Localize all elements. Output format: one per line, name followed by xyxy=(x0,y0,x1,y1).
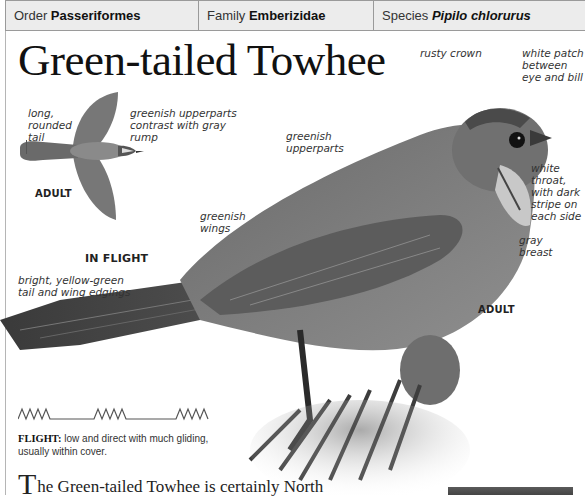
page-title: Green-tailed Towhee xyxy=(18,34,386,86)
flight-label: FLIGHT: xyxy=(18,433,62,444)
annotation-rusty-crown: rusty crown xyxy=(420,47,482,59)
in-flight-caption: IN FLIGHT xyxy=(85,252,148,265)
flight-adult-tag: ADULT xyxy=(35,188,72,199)
species-cell: Species Pipilo chlorurus xyxy=(374,1,585,30)
annotation-greenish-wings: greenish wings xyxy=(200,210,246,234)
annotation-greenish-upperparts: greenish upperparts xyxy=(286,130,344,154)
annotation-white-patch: white patch between eye and bill xyxy=(522,47,584,83)
family-label: Family xyxy=(207,8,245,23)
drop-cap: T xyxy=(18,467,36,500)
flight-description: FLIGHT: low and direct with much gliding… xyxy=(18,432,238,458)
annotation-gray-breast: gray breast xyxy=(519,234,552,258)
range-map-edge xyxy=(448,487,573,495)
order-cell: Order Passeriformes xyxy=(5,1,199,30)
intro-paragraph: The Green-tailed Towhee is certainly Nor… xyxy=(18,476,323,497)
family-value: Emberizidae xyxy=(249,8,326,23)
order-label: Order xyxy=(14,8,47,23)
annotation-flight-upperparts: greenish upperparts contrast with gray r… xyxy=(130,107,237,143)
species-value: Pipilo chlorurus xyxy=(432,8,531,23)
leader-line xyxy=(26,140,27,154)
main-adult-tag: ADULT xyxy=(478,304,515,315)
intro-text: he Green-tailed Towhee is certainly Nort… xyxy=(37,477,323,496)
annotation-tail-edgings: bright, yellow-green tail and wing edgin… xyxy=(18,274,130,298)
order-value: Passeriformes xyxy=(51,8,141,23)
flight-pattern-icon xyxy=(18,405,218,423)
annotation-white-throat: white throat, with dark stripe on each s… xyxy=(531,162,581,222)
annotation-long-rounded-tail: long, rounded tail xyxy=(28,107,72,143)
species-label: Species xyxy=(382,8,428,23)
family-cell: Family Emberizidae xyxy=(199,1,374,30)
taxonomy-header: Order Passeriformes Family Emberizidae S… xyxy=(5,0,585,31)
